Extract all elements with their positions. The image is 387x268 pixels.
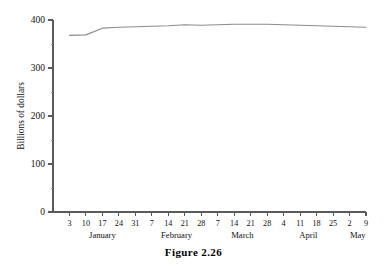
data-series-line bbox=[69, 24, 366, 35]
x-tick-label: 28 bbox=[263, 219, 271, 228]
x-tick-label: 7 bbox=[150, 219, 154, 228]
figure-container: 0100200300400 31017243171421287142128411… bbox=[0, 0, 387, 268]
x-tick-label: 17 bbox=[98, 219, 106, 228]
x-tick-label: 21 bbox=[247, 219, 255, 228]
x-tick-label: 7 bbox=[216, 219, 220, 228]
y-tick-label: 100 bbox=[31, 159, 46, 169]
x-tick-label: 9 bbox=[364, 219, 368, 228]
x-tick-label: 25 bbox=[329, 219, 337, 228]
x-tick-label: 10 bbox=[82, 219, 90, 228]
x-tick-label: 2 bbox=[347, 219, 351, 228]
y-tick-label: 200 bbox=[31, 111, 46, 121]
x-tick-label: 18 bbox=[312, 219, 320, 228]
x-tick-label: 14 bbox=[230, 219, 238, 228]
figure-caption: Figure 2.26 bbox=[0, 246, 387, 258]
x-axis-month-label: May bbox=[350, 230, 366, 240]
y-tick-marks bbox=[48, 20, 53, 212]
x-tick-label: 3 bbox=[67, 219, 71, 228]
x-axis-month-label: March bbox=[231, 230, 254, 240]
x-axis-month-label: April bbox=[299, 230, 318, 240]
y-tick-label: 400 bbox=[31, 15, 46, 25]
y-tick-label: 300 bbox=[31, 63, 46, 73]
y-axis-title: Billions of dollars bbox=[16, 82, 26, 150]
line-chart: 0100200300400 31017243171421287142128411… bbox=[0, 0, 387, 246]
x-tick-label: 24 bbox=[115, 219, 123, 228]
y-tick-label: 0 bbox=[40, 207, 45, 217]
x-tick-label: 14 bbox=[164, 219, 172, 228]
x-tick-label: 31 bbox=[131, 219, 139, 228]
x-tick-labels: 31017243171421287142128411182529 bbox=[67, 219, 368, 228]
x-tick-marks bbox=[69, 212, 366, 216]
x-axis-month-label: February bbox=[161, 230, 193, 240]
x-axis-month-labels: JanuaryFebruaryMarchAprilMay bbox=[89, 230, 366, 240]
x-tick-label: 4 bbox=[282, 219, 286, 228]
x-axis-month-label: January bbox=[89, 230, 116, 240]
x-tick-label: 21 bbox=[181, 219, 189, 228]
x-tick-label: 11 bbox=[296, 219, 304, 228]
x-tick-label: 28 bbox=[197, 219, 205, 228]
y-tick-labels: 0100200300400 bbox=[31, 15, 46, 217]
